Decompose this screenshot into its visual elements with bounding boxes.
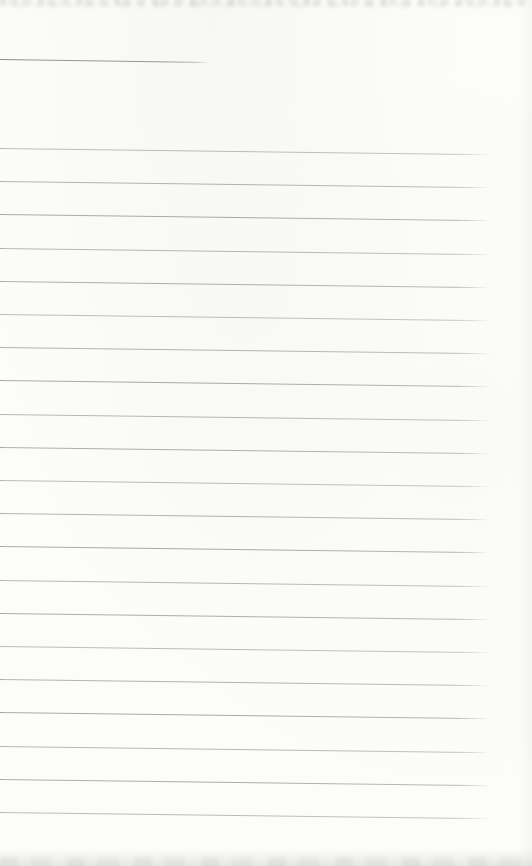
ruled-line xyxy=(0,281,491,288)
ruled-line xyxy=(0,248,491,255)
ruled-line xyxy=(0,646,491,653)
ruled-line xyxy=(0,181,491,188)
ruled-line xyxy=(0,746,491,753)
ruled-line xyxy=(0,779,491,786)
ruled-line xyxy=(0,812,491,819)
notebook-page xyxy=(0,0,532,866)
ruled-line xyxy=(0,712,491,719)
ruled-line xyxy=(0,148,491,155)
bottom-band-mottle xyxy=(0,857,532,866)
ruled-line xyxy=(0,380,491,387)
ruled-line xyxy=(0,414,491,421)
ruled-line xyxy=(0,580,491,587)
ruled-line xyxy=(0,214,491,221)
ruled-line xyxy=(0,347,491,354)
cropped-band-bottom xyxy=(0,849,532,866)
ruled-line xyxy=(0,480,491,487)
ruled-line xyxy=(0,314,491,321)
ruled-line xyxy=(0,546,491,553)
ruled-line xyxy=(0,513,491,520)
ruled-lines xyxy=(0,0,532,866)
ruled-line xyxy=(0,613,491,620)
ruled-line xyxy=(0,679,491,686)
ruled-line xyxy=(0,447,491,454)
